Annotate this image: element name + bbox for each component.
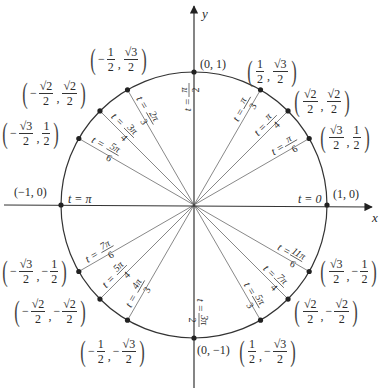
point-marker-120 — [125, 87, 130, 92]
angle-label-90: t =π2 — [178, 83, 201, 111]
svg-text:t =: t = — [269, 140, 286, 157]
coord-label-225: (−√22,−√22) — [12, 296, 88, 326]
svg-text:4: 4 — [269, 282, 280, 293]
coord-label-30: (√32,12) — [318, 122, 372, 152]
angle-label-300: t =5π3 — [235, 278, 269, 314]
svg-text:4: 4 — [119, 132, 130, 143]
svg-text:6: 6 — [289, 143, 299, 155]
point-marker-45 — [285, 108, 290, 113]
coord-label-0: (1, 0) — [333, 188, 359, 200]
angle-label-60: t =π3 — [227, 91, 261, 127]
svg-text:4: 4 — [271, 119, 282, 130]
angle-label-135: t =3π4 — [103, 108, 141, 146]
ray-210 — [79, 205, 194, 272]
ray-240 — [128, 205, 195, 320]
angle-label-315: t =7π4 — [255, 260, 291, 296]
svg-text:t =: t = — [242, 280, 259, 297]
angle-label-0: t = 0 — [298, 192, 321, 206]
svg-text:π: π — [178, 87, 189, 93]
coord-label-330: (√32,−12) — [318, 256, 379, 286]
svg-text:3: 3 — [138, 117, 150, 127]
point-marker-150 — [76, 136, 81, 141]
angle-label-30: t =π6 — [267, 130, 303, 164]
angle-label-45: t =π4 — [249, 107, 285, 143]
coord-label-180: (−1, 0) — [14, 186, 47, 198]
angle-label-225: t =5π4 — [97, 257, 135, 295]
point-marker-330 — [307, 269, 312, 274]
angle-label-330: t =11π6 — [272, 238, 309, 273]
svg-text:2: 2 — [187, 318, 198, 323]
coord-label-120: (−12,√32) — [88, 44, 149, 74]
coord-label-60: (12,√32) — [245, 56, 299, 86]
angle-label-270: t =3π2 — [187, 299, 210, 327]
point-marker-30 — [307, 136, 312, 141]
unit-circle-diagram: t = 0t =π6t =π4t =π3t =π2t =2π3t =3π4t =… — [0, 0, 381, 388]
unit-circle-svg: t = 0t =π6t =π4t =π3t =π2t =2π3t =3π4t =… — [0, 0, 381, 388]
point-marker-60 — [258, 87, 263, 92]
angle-label-240: t =4π3 — [120, 275, 155, 313]
svg-text:t =: t = — [134, 94, 151, 111]
coord-label-45: (√22,√22) — [292, 86, 352, 116]
svg-text:4: 4 — [121, 269, 132, 280]
svg-text:t =: t = — [195, 299, 207, 312]
svg-text:t =: t = — [83, 248, 100, 265]
svg-text:t =: t = — [90, 133, 107, 150]
svg-text:t =: t = — [99, 272, 117, 290]
coord-label-300: (12,−√32) — [237, 336, 298, 366]
x-axis-label: x — [371, 210, 378, 225]
angle-label-180: t = π — [68, 192, 92, 206]
ray-135 — [100, 111, 194, 205]
angle-label-150: t =5π6 — [86, 131, 124, 166]
svg-text:t =: t = — [122, 292, 139, 309]
coord-label-135: (−√22,√22) — [20, 78, 88, 108]
point-marker-90 — [191, 69, 196, 74]
point-marker-0 — [324, 202, 329, 207]
svg-text:t =: t = — [251, 120, 269, 138]
svg-text:3: 3 — [244, 300, 256, 310]
svg-text:t =: t = — [109, 110, 127, 128]
ray-225 — [100, 205, 194, 299]
point-marker-135 — [97, 108, 102, 113]
coord-label-315: (√22,−√22) — [292, 296, 360, 326]
svg-text:6: 6 — [106, 249, 116, 261]
svg-text:3π: 3π — [199, 314, 210, 326]
point-marker-210 — [76, 269, 81, 274]
point-marker-300 — [258, 318, 263, 323]
ray-150 — [79, 139, 194, 206]
svg-text:2: 2 — [190, 88, 201, 93]
coord-label-150: (−√32,12) — [0, 118, 61, 148]
y-axis-label: y — [200, 6, 208, 21]
point-marker-240 — [125, 318, 130, 323]
point-marker-315 — [285, 296, 290, 301]
svg-text:t =: t = — [181, 98, 193, 111]
coord-label-210: (−√32,−12) — [0, 256, 69, 286]
coord-label-240: (−12,−√32) — [78, 336, 147, 366]
point-marker-270 — [191, 335, 196, 340]
coord-label-270: (0, −1) — [197, 344, 230, 356]
coord-label-90: (0, 1) — [200, 58, 226, 70]
point-marker-225 — [97, 296, 102, 301]
point-marker-180 — [58, 202, 63, 207]
